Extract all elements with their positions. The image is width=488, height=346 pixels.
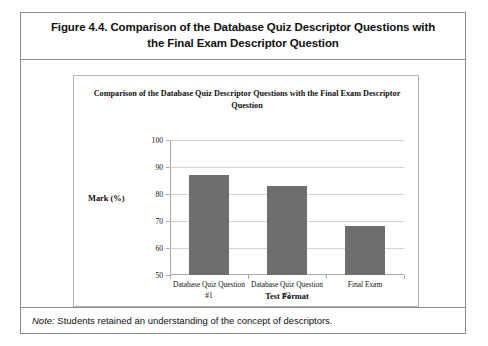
y-tick-label: 100 [152,136,163,145]
x-tick-mark [170,275,171,279]
note-body: Students retained an understanding of th… [55,315,333,326]
y-tick-mark [166,194,170,195]
y-axis-title: Mark (%) [88,194,125,203]
note-lead: Note: [32,315,55,326]
y-axis-line [170,140,171,275]
bar [345,226,385,275]
y-tick-mark [166,248,170,249]
y-tick-mark [166,167,170,168]
figure-caption-text: Figure 4.4. Comparison of the Database Q… [47,20,439,51]
y-tick-mark [166,140,170,141]
chart-title: Comparison of the Database Quiz Descript… [92,88,402,113]
chart-card: Comparison of the Database Quiz Descript… [73,75,419,307]
figure-caption: Figure 4.4. Comparison of the Database Q… [21,13,465,60]
y-tick-label: 70 [155,217,163,226]
gridline [170,140,404,141]
bar [189,175,229,275]
x-tick-mark [404,275,405,279]
figure-frame: Figure 4.4. Comparison of the Database Q… [20,12,466,334]
x-axis-title: Test Format [170,292,404,301]
bar [267,186,307,275]
y-tick-label: 90 [155,163,163,172]
y-tick-label: 80 [155,190,163,199]
plot-area: 1009080706050 Database Quiz Question #1D… [170,140,404,275]
x-tick-mark [326,275,327,279]
y-tick-label: 50 [155,271,163,280]
figure-note-text: Note: Students retained an understanding… [32,315,333,326]
y-tick-label: 60 [155,244,163,253]
gridline [170,167,404,168]
x-tick-label: Final Exam [326,280,404,291]
x-tick-mark [248,275,249,279]
y-tick-mark [166,221,170,222]
figure-note: Note: Students retained an understanding… [21,307,465,333]
